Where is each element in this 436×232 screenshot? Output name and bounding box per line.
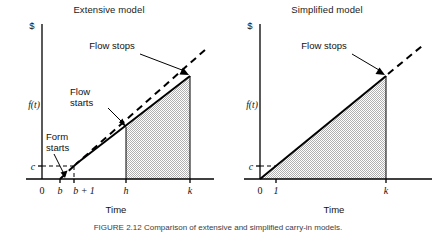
y-tick-label-c-left: c xyxy=(31,161,36,172)
x-axis-name-left: Time xyxy=(106,204,127,215)
annotation-flow-stops-right: Flow stops xyxy=(301,40,347,51)
x-tick-label-b: b xyxy=(58,185,63,196)
y-tick-label-c-right: c xyxy=(249,161,254,172)
annotation-flow-starts-line2: starts xyxy=(70,97,93,108)
chart-panel-extensive-model: Extensive model xyxy=(0,0,218,232)
x-tick-label-0-right: 0 xyxy=(258,185,263,196)
y-axis-label-ft-left: f(t) xyxy=(28,100,40,111)
y-axis-label-dollar-right: $ xyxy=(247,20,253,31)
x-tick-label-0-left: 0 xyxy=(40,185,45,196)
figure-caption: FIGURE 2.12 Comparison of extensive and … xyxy=(0,222,436,232)
x-tick-label-1: 1 xyxy=(274,185,279,196)
annotation-form-starts-line2: starts xyxy=(46,142,69,153)
leader-flow-stops-left xyxy=(140,54,182,70)
leader-flow-starts xyxy=(108,108,122,122)
y-axis-label-ft-right: f(t) xyxy=(246,100,258,111)
extensive-model-plot: $ f(t) c 0 b b + 1 h k Time Form starts … xyxy=(0,0,218,232)
annotation-form-starts-line1: Form xyxy=(46,131,68,142)
x-tick-label-h: h xyxy=(124,185,129,196)
annotation-flow-stops-left: Flow stops xyxy=(89,40,135,51)
leader-flow-stops-right xyxy=(352,54,379,70)
x-tick-label-b-plus-1: b + 1 xyxy=(73,185,95,196)
chart-panel-simplified-model: Simplified model xyxy=(218,0,436,232)
x-tick-label-k-left: k xyxy=(188,185,193,196)
x-axis-name-right: Time xyxy=(324,204,345,215)
x-tick-label-k-right: k xyxy=(384,185,389,196)
simplified-model-plot: $ f(t) c 0 1 k Time Flow stops xyxy=(218,0,436,232)
figure-container: Extensive model xyxy=(0,0,436,232)
y-axis-label-dollar-left: $ xyxy=(29,20,35,31)
dashed-extension-right xyxy=(388,46,422,74)
annotation-flow-starts-line1: Flow xyxy=(70,86,90,97)
leader-form-starts xyxy=(54,154,64,174)
